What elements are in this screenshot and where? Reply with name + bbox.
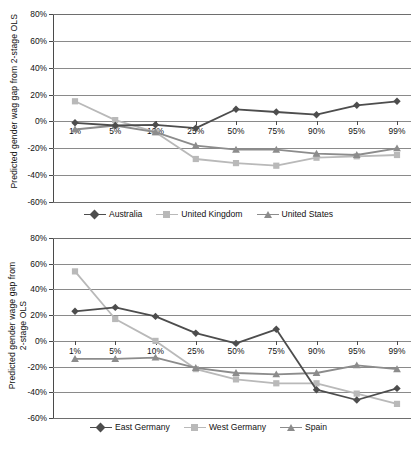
data-point bbox=[394, 152, 400, 158]
data-point bbox=[353, 396, 361, 403]
plot-area-top: 80%60%40%20%0%-20%-40%-60% 1%5%10%25%50%… bbox=[53, 14, 411, 202]
series-layer-bottom bbox=[53, 238, 411, 418]
y-axis-tick-label: -20% bbox=[27, 362, 47, 372]
data-point bbox=[313, 111, 320, 118]
legend-label: United States bbox=[282, 209, 334, 219]
y-axis-tick-label: 0% bbox=[35, 336, 47, 346]
chart-bottom: Predicted gender wage gap from2-stage OL… bbox=[0, 230, 417, 453]
plot-area-bottom: 80%60%40%20%0%-20%-40%-60% 1%5%10%25%50%… bbox=[53, 238, 411, 418]
data-point bbox=[192, 329, 200, 337]
y-axis-tick-label: 60% bbox=[30, 36, 47, 46]
data-point bbox=[152, 313, 159, 320]
legend-label: United Kingdom bbox=[181, 209, 242, 219]
y-axis-tick-label: 20% bbox=[30, 310, 47, 320]
data-point bbox=[193, 156, 199, 162]
y-axis-tick-label: 40% bbox=[30, 63, 47, 73]
diamond-marker-icon bbox=[90, 423, 112, 432]
data-point bbox=[393, 385, 400, 392]
triangle-marker-icon bbox=[280, 423, 302, 432]
data-point bbox=[71, 119, 78, 126]
legend-marker bbox=[264, 211, 272, 218]
legend-bottom: East GermanyWest GermanySpain bbox=[0, 422, 417, 432]
data-point bbox=[273, 163, 279, 169]
data-point bbox=[394, 401, 400, 407]
legend-item-spain[interactable]: Spain bbox=[280, 422, 327, 432]
legend-item-west-germany[interactable]: West Germany bbox=[184, 422, 266, 432]
y-axis-tick-label: -40% bbox=[27, 387, 47, 397]
data-point bbox=[233, 376, 239, 382]
legend-label: Spain bbox=[305, 422, 327, 432]
y-axis-tick-label: 80% bbox=[30, 233, 47, 243]
square-marker-icon bbox=[156, 210, 178, 219]
y-axis-tick bbox=[49, 202, 53, 203]
legend-label: East Germany bbox=[115, 422, 170, 432]
legend-marker bbox=[89, 209, 99, 219]
y-axis-tick-label: 20% bbox=[30, 90, 47, 100]
legend-item-united-states[interactable]: United States bbox=[257, 209, 334, 219]
y-axis-title-bottom-wrap: Predicted gender wage gap from2-stage OL… bbox=[0, 230, 30, 453]
diamond-marker-icon bbox=[84, 210, 106, 219]
legend-marker bbox=[96, 422, 106, 432]
data-point bbox=[353, 102, 361, 109]
data-point bbox=[233, 160, 239, 166]
y-axis-title-bottom: Predicted gender wage gap from2-stage OL… bbox=[7, 238, 28, 413]
data-point bbox=[192, 124, 200, 131]
y-axis-tick bbox=[49, 418, 53, 419]
data-point bbox=[232, 106, 239, 114]
y-axis-tick-label: 40% bbox=[30, 284, 47, 294]
series-line-west-germany bbox=[75, 271, 397, 404]
legend-item-east-germany[interactable]: East Germany bbox=[90, 422, 170, 432]
triangle-marker-icon bbox=[257, 210, 279, 219]
legend-label: West Germany bbox=[209, 422, 266, 432]
legend-item-australia[interactable]: Australia bbox=[84, 209, 142, 219]
legend-label: Australia bbox=[109, 209, 142, 219]
data-point bbox=[152, 338, 158, 344]
y-axis-tick-label: -60% bbox=[27, 197, 47, 207]
y-axis-title-top: Predicted gender wag gap from 2-stage OL… bbox=[9, 1, 20, 201]
y-axis-tick-label: -20% bbox=[27, 143, 47, 153]
data-point bbox=[72, 98, 78, 104]
y-axis-title-top-wrap: Predicted gender wag gap from 2-stage OL… bbox=[0, 0, 30, 230]
series-layer-top bbox=[53, 14, 411, 202]
data-point bbox=[232, 340, 239, 347]
y-axis-tick-label: 60% bbox=[30, 259, 47, 269]
legend-marker bbox=[287, 424, 295, 431]
legend-marker bbox=[163, 211, 170, 218]
data-point bbox=[354, 391, 360, 397]
legend-item-united-kingdom[interactable]: United Kingdom bbox=[156, 209, 242, 219]
data-point bbox=[393, 98, 400, 105]
y-axis-tick-label: -40% bbox=[27, 170, 47, 180]
chart-top: Predicted gender wag gap from 2-stage OL… bbox=[0, 0, 417, 230]
data-point bbox=[112, 304, 120, 311]
data-point bbox=[112, 316, 118, 322]
y-axis-tick-label: 0% bbox=[35, 116, 47, 126]
legend-top: AustraliaUnited KingdomUnited States bbox=[0, 209, 417, 219]
square-marker-icon bbox=[184, 423, 206, 432]
y-axis-title-bottom-line-1: 2-stage OLS bbox=[18, 238, 29, 413]
y-axis-tick-label: 80% bbox=[30, 9, 47, 19]
gridline bbox=[53, 418, 411, 419]
data-point bbox=[273, 380, 279, 386]
data-point bbox=[152, 121, 159, 128]
legend-marker bbox=[191, 424, 198, 431]
y-axis-title-bottom-line-0: Predicted gender wage gap from bbox=[7, 238, 18, 413]
series-line-east-germany bbox=[75, 307, 397, 400]
series-line-australia bbox=[75, 101, 397, 128]
data-point bbox=[273, 108, 281, 115]
data-point bbox=[71, 308, 78, 315]
gridline bbox=[53, 202, 411, 203]
data-point bbox=[72, 268, 78, 274]
